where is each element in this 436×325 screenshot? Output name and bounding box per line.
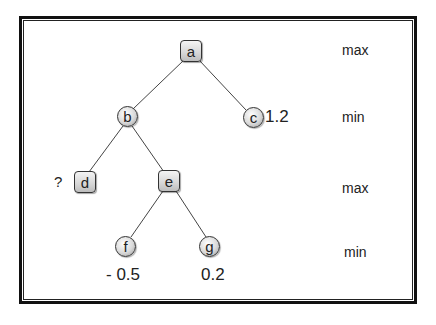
node-b: b (117, 106, 138, 127)
node-d-value: ? (54, 173, 62, 190)
node-d-label: d (81, 175, 89, 190)
node-b-label: b (123, 109, 131, 124)
node-c-label: c (250, 110, 258, 125)
node-f: f (115, 236, 136, 257)
node-d: d (74, 171, 96, 193)
level-label-max-2: max (342, 180, 368, 196)
node-g-value: 0.2 (201, 265, 225, 285)
node-a: a (180, 40, 202, 62)
level-label-max-0: max (342, 42, 368, 58)
node-g: g (199, 236, 220, 257)
node-g-label: g (205, 239, 213, 254)
edge-e-f (131, 191, 163, 237)
edge-b-e (132, 126, 164, 172)
level-label-min-3: min (344, 244, 367, 260)
node-f-label: f (123, 239, 127, 254)
edge-e-g (176, 191, 206, 237)
node-c: c (243, 107, 264, 128)
edge-b-d (89, 126, 123, 172)
node-c-value: 1.2 (265, 107, 289, 127)
node-f-value: - 0.5 (106, 265, 140, 285)
node-e: e (158, 170, 180, 192)
node-e-label: e (165, 174, 173, 189)
level-label-min-1: min (342, 109, 365, 125)
edge-a-b (133, 60, 184, 109)
edge-a-c (199, 60, 246, 110)
node-a-label: a (187, 44, 195, 59)
